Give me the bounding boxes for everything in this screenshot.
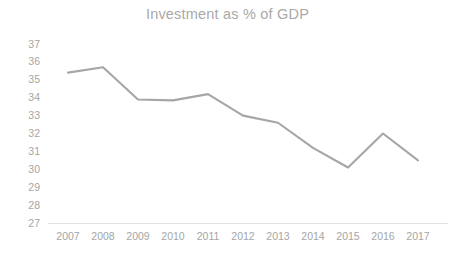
y-axis-tick-36: 36 xyxy=(14,56,40,67)
x-axis-tick-2011: 2011 xyxy=(188,231,228,242)
x-axis-tick-2015: 2015 xyxy=(328,231,368,242)
y-axis-tick-28: 28 xyxy=(14,200,40,211)
y-axis-tick-32: 32 xyxy=(14,128,40,139)
x-axis-tick-2013: 2013 xyxy=(258,231,298,242)
y-axis-tick-35: 35 xyxy=(14,74,40,85)
x-axis-tick-2016: 2016 xyxy=(363,231,403,242)
x-axis-tick-2017: 2017 xyxy=(398,231,438,242)
x-axis-tick-2010: 2010 xyxy=(153,231,193,242)
y-axis-tick-31: 31 xyxy=(14,146,40,157)
x-axis-tick-2009: 2009 xyxy=(118,231,158,242)
y-axis-tick-33: 33 xyxy=(14,110,40,121)
chart-container: Investment as % of GDP 37363534333231302… xyxy=(0,0,455,271)
data-series-line xyxy=(68,67,418,167)
y-axis-tick-34: 34 xyxy=(14,92,40,103)
x-axis-tick-2014: 2014 xyxy=(293,231,333,242)
x-axis-tick-2008: 2008 xyxy=(83,231,123,242)
y-axis-tick-30: 30 xyxy=(14,164,40,175)
x-axis-tick-2007: 2007 xyxy=(48,231,88,242)
y-axis-tick-29: 29 xyxy=(14,182,40,193)
y-axis-tick-37: 37 xyxy=(14,39,40,50)
x-axis-tick-2012: 2012 xyxy=(223,231,263,242)
y-axis-tick-27: 27 xyxy=(14,218,40,229)
